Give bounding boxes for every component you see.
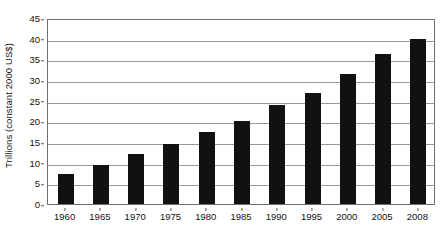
bar-slot (365, 20, 400, 204)
y-axis-tick-label: 20 (29, 118, 40, 128)
bar (163, 144, 179, 204)
y-axis-tick-label: 0 (35, 200, 40, 210)
x-axis-tick-label: 1980 (195, 212, 216, 222)
y-axis-tick-label: 10 (29, 159, 40, 169)
bars-layer (48, 20, 434, 204)
x-axis-tick-label: 2005 (372, 212, 393, 222)
x-axis-tick-label: 1965 (89, 212, 110, 222)
x-axis-tick-label: 1985 (230, 212, 251, 222)
bar (58, 174, 74, 204)
y-axis-title-label: Trillions (constant 2000 US$) (4, 42, 15, 167)
y-axis-tick-label: 35 (29, 56, 40, 66)
x-axis-tick-label: 1960 (54, 212, 75, 222)
bar (93, 165, 109, 204)
bar-slot (189, 20, 224, 204)
bar (234, 121, 250, 204)
bar-slot (401, 20, 436, 204)
x-axis-tick-labels: 1960196519701975198019851990199520002005… (47, 208, 435, 228)
y-axis-title: Trillions (constant 2000 US$) (0, 0, 18, 210)
bar (305, 93, 321, 204)
x-axis-tick-label: 1990 (266, 212, 287, 222)
y-axis-tick-label: 45 (29, 14, 40, 24)
x-axis-tick-label: 1995 (301, 212, 322, 222)
bar-slot (119, 20, 154, 204)
bar-slot (83, 20, 118, 204)
y-axis-tick-label: 30 (29, 76, 40, 86)
x-axis-tick-label: 2000 (336, 212, 357, 222)
bar-slot (48, 20, 83, 204)
y-axis-tick-label: 40 (29, 35, 40, 45)
bar (128, 154, 144, 204)
y-axis-tick-labels: 051015202530354045 (18, 19, 44, 205)
bar-slot (154, 20, 189, 204)
y-axis-tick-label: 5 (35, 180, 40, 190)
bar (410, 39, 426, 204)
y-axis-tick-label: 25 (29, 97, 40, 107)
bar (375, 54, 391, 204)
y-axis-tick-label: 15 (29, 138, 40, 148)
bar (269, 105, 285, 204)
bar-slot (224, 20, 259, 204)
bar (340, 74, 356, 204)
bar-chart-figure: Trillions (constant 2000 US$) 0510152025… (0, 0, 443, 252)
bar-slot (330, 20, 365, 204)
plot-area (47, 19, 435, 205)
bar-slot (260, 20, 295, 204)
bar (199, 132, 215, 204)
x-axis-tick-label: 2008 (407, 212, 428, 222)
x-axis-tick-label: 1970 (125, 212, 146, 222)
x-axis-tick-label: 1975 (160, 212, 181, 222)
bar-slot (295, 20, 330, 204)
